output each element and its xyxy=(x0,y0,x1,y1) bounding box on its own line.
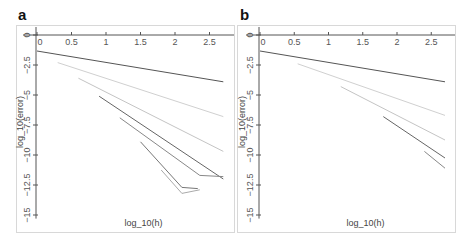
y-tick-label: −15 xyxy=(245,207,255,222)
series-line xyxy=(298,64,445,116)
x-tick-label: 1.5 xyxy=(356,37,369,47)
y-tick-label: −2.5 xyxy=(245,56,255,74)
x-tick-label: 2.5 xyxy=(203,37,216,47)
y-tick-label: −12.5 xyxy=(22,174,32,197)
series-line xyxy=(120,118,224,177)
x-tick-label: 1.5 xyxy=(134,37,147,47)
series-line xyxy=(383,117,445,158)
y-tick-label: −15 xyxy=(22,207,32,222)
x-tick-label: 0 xyxy=(260,37,265,47)
y-tick-label: −12.5 xyxy=(245,174,255,197)
x-tick-label: 1 xyxy=(326,37,331,47)
series-line xyxy=(141,142,198,189)
x-tick-label: 2 xyxy=(394,37,399,47)
y-tick-label: −10 xyxy=(245,147,255,162)
y-tick-label: −2.5 xyxy=(22,56,32,74)
x-tick-label: 0.5 xyxy=(288,37,301,47)
x-tick-label: 0.5 xyxy=(65,37,78,47)
x-tick-label: 2 xyxy=(172,37,177,47)
series-line xyxy=(260,51,445,82)
series-line xyxy=(37,51,223,82)
x-tick-label: 2.5 xyxy=(425,37,438,47)
x-axis-label: log_10(h) xyxy=(124,218,162,228)
series-line xyxy=(424,151,445,168)
y-axis-label: log_10(error) xyxy=(15,96,25,148)
series-line xyxy=(58,63,224,117)
series-line xyxy=(341,87,445,140)
series-line xyxy=(161,170,200,193)
x-tick-label: 0 xyxy=(37,37,42,47)
y-tick-label: 0 xyxy=(22,32,32,37)
series-line xyxy=(99,96,223,179)
y-tick-label: −10 xyxy=(22,147,32,162)
x-tick-label: 1 xyxy=(103,37,108,47)
y-tick-label: 0 xyxy=(245,32,255,37)
y-axis-label: log_10(error) xyxy=(237,96,247,148)
chart-canvas: 00.511.522.50−2.5−5−7.5−10−12.5−15log_10… xyxy=(0,0,467,246)
x-axis-label: log_10(h) xyxy=(346,218,384,228)
